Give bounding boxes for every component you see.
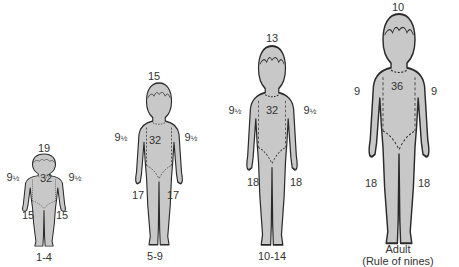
figure-age-5-9	[136, 83, 183, 245]
left-arm-percent-label: 9	[354, 85, 360, 97]
trunk-percent-label: 36	[391, 80, 403, 92]
figure-age-1-4	[23, 154, 66, 246]
trunk-percent-label: 32	[40, 172, 52, 184]
age-caption: 5-9	[147, 250, 163, 262]
body-figures-illustration	[0, 0, 459, 267]
trunk-percent-label: 32	[266, 104, 278, 116]
right-arm-percent-label: 9½	[185, 131, 198, 145]
age-caption: 10-14	[258, 250, 286, 262]
left-arm-percent-label: 9½	[115, 131, 128, 145]
left-leg-percent-label: 15	[22, 209, 34, 221]
left-arm-percent-label: 9½	[7, 171, 20, 185]
right-arm-percent-label: 9½	[304, 104, 317, 118]
rule-of-nines-caption: (Rule of nines)	[362, 255, 434, 267]
figure-adult	[369, 14, 429, 243]
left-leg-percent-label: 18	[247, 176, 259, 188]
right-leg-percent-label: 18	[290, 176, 302, 188]
right-leg-percent-label: 15	[56, 209, 68, 221]
left-leg-percent-label: 18	[365, 177, 377, 189]
right-arm-percent-label: 9	[431, 85, 437, 97]
right-leg-percent-label: 18	[418, 177, 430, 189]
right-arm-percent-label: 9½	[69, 171, 82, 185]
head-percent-label: 19	[38, 142, 50, 154]
left-arm-percent-label: 9½	[229, 104, 242, 118]
age-caption: Adult	[385, 243, 410, 255]
head-percent-label: 15	[148, 70, 160, 82]
head-percent-label: 10	[392, 1, 404, 13]
head-percent-label: 13	[266, 32, 278, 44]
left-leg-percent-label: 17	[132, 189, 144, 201]
age-caption: 1-4	[36, 251, 52, 263]
right-leg-percent-label: 17	[167, 189, 179, 201]
trunk-percent-label: 32	[149, 134, 161, 146]
figure-age-10-14	[247, 46, 297, 245]
